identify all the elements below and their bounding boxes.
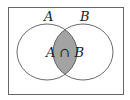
set-a-label: A <box>43 9 53 24</box>
venn-diagram: A B A ∩ B <box>0 0 130 100</box>
set-b-label: B <box>79 9 90 24</box>
intersection-label: A ∩ B <box>45 45 84 60</box>
